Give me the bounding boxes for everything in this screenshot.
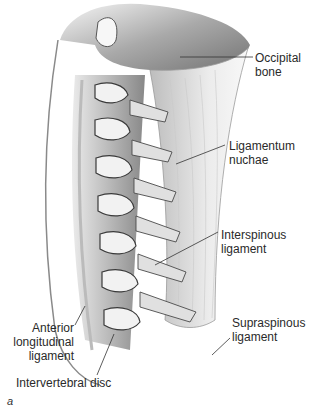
label-line: ligament <box>232 330 305 344</box>
label-line: Intervertebral disc <box>16 376 111 390</box>
label-supraspinous-ligament: Supraspinous ligament <box>232 316 305 344</box>
label-line: Occipital <box>255 51 301 65</box>
label-intervertebral-disc: Intervertebral disc <box>16 376 111 390</box>
ligamentum-nuchae-shape <box>150 48 248 328</box>
label-line: nuchae <box>229 153 295 167</box>
occipital-bone-shape <box>60 4 250 72</box>
label-line: Interspinous <box>221 228 286 242</box>
label-anterior-longitudinal-ligament: Anterior longitudinal ligament <box>4 321 74 363</box>
label-interspinous-ligament: Interspinous ligament <box>221 228 286 256</box>
label-line: Anterior <box>4 321 74 335</box>
label-line: Supraspinous <box>232 316 305 330</box>
label-ligamentum-nuchae: Ligamentum nuchae <box>229 139 295 167</box>
label-line: ligament <box>221 242 286 256</box>
label-line: bone <box>255 65 301 79</box>
label-line: ligament <box>4 349 74 363</box>
label-line: Ligamentum <box>229 139 295 153</box>
label-line: longitudinal <box>4 335 74 349</box>
label-occipital-bone: Occipital bone <box>255 51 301 79</box>
panel-letter: a <box>7 395 13 407</box>
